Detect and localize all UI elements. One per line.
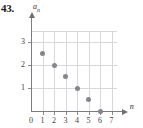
x-axis-tick-label: 1 bbox=[38, 116, 48, 125]
data-point bbox=[98, 109, 103, 114]
x-axis-tick-label: 5 bbox=[84, 116, 94, 125]
x-axis-tick-label: 3 bbox=[61, 116, 71, 125]
data-point bbox=[86, 97, 91, 102]
gridline-horizontal bbox=[31, 42, 117, 43]
y-axis-tick bbox=[28, 88, 31, 89]
x-axis-tick-label: 7 bbox=[107, 116, 117, 125]
y-axis-line bbox=[31, 18, 32, 112]
x-axis-tick-label: 6 bbox=[95, 116, 105, 125]
data-point bbox=[40, 51, 45, 56]
x-axis-tick-label: 0 bbox=[26, 116, 36, 125]
x-axis-tick bbox=[77, 112, 78, 115]
gridline-horizontal-top bbox=[31, 31, 117, 32]
data-point bbox=[63, 74, 68, 79]
y-axis-label-subscript: n bbox=[37, 7, 40, 13]
y-axis-tick-label: 3 bbox=[16, 37, 25, 46]
figure-container: 43. 01234567123ann bbox=[0, 0, 143, 128]
scatter-plot: 01234567123ann bbox=[0, 0, 143, 128]
y-axis-tick-label: 1 bbox=[16, 83, 25, 92]
x-axis-tick bbox=[89, 112, 90, 115]
y-axis-tick-label: 2 bbox=[16, 60, 25, 69]
x-axis-tick-label: 4 bbox=[72, 116, 82, 125]
y-axis-label: an bbox=[33, 2, 40, 15]
x-axis-label: n bbox=[130, 102, 134, 111]
data-point bbox=[52, 63, 57, 68]
y-axis-tick bbox=[28, 42, 31, 43]
y-axis-tick bbox=[28, 65, 31, 66]
x-axis-arrowhead bbox=[122, 109, 128, 115]
x-axis-tick bbox=[54, 112, 55, 115]
x-axis-tick bbox=[66, 112, 67, 115]
x-axis-tick bbox=[112, 112, 113, 115]
gridline-horizontal bbox=[31, 65, 117, 66]
x-axis-tick-label: 2 bbox=[49, 116, 59, 125]
x-axis-tick bbox=[43, 112, 44, 115]
data-point bbox=[75, 86, 80, 91]
